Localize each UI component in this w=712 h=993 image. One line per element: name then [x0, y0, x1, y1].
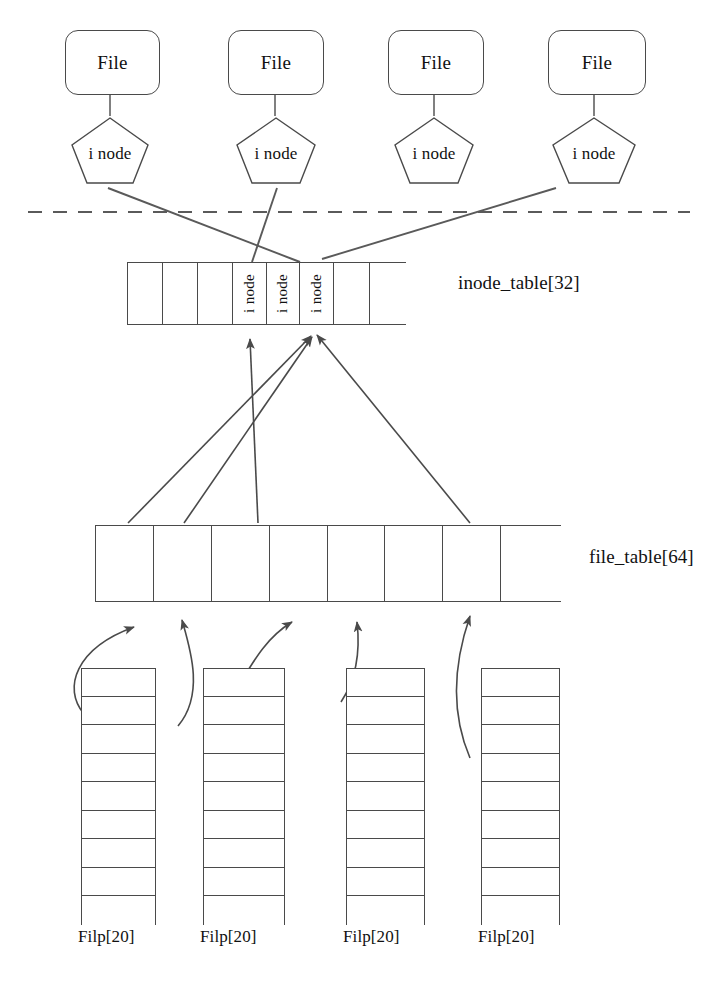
file-table-cell-5[interactable]	[385, 526, 443, 601]
filp-row[interactable]	[347, 697, 424, 725]
filp-row[interactable]	[482, 669, 559, 697]
inode-table-cell-5[interactable]: i node	[300, 263, 334, 324]
filp-row[interactable]	[82, 725, 155, 754]
filp-row[interactable]	[204, 754, 284, 782]
inode-node-label: i node	[393, 144, 475, 164]
filp-row[interactable]	[347, 782, 424, 811]
filp-table-1[interactable]	[203, 668, 285, 925]
file-table-cell-2[interactable]	[212, 526, 270, 601]
filp-row[interactable]	[82, 669, 155, 697]
filp-table-2[interactable]	[346, 668, 425, 925]
file-table-caption: file_table[64]	[589, 546, 694, 568]
filp-row[interactable]	[82, 754, 155, 782]
filp-table-3[interactable]	[481, 668, 560, 925]
filp-caption-text: Filp[20]	[343, 927, 400, 946]
filp-caption-text: Filp[20]	[478, 927, 535, 946]
inode-table-cell-label: i node	[308, 274, 325, 313]
inode-table-cell-2[interactable]	[198, 263, 233, 324]
filp-row[interactable]	[204, 669, 284, 697]
inode-table-cell-0[interactable]	[128, 263, 163, 324]
filp-row[interactable]	[482, 896, 559, 924]
file-node-1[interactable]: File	[228, 30, 324, 95]
file-table-cell-7[interactable]	[501, 526, 561, 601]
filesystem-diagram: File File File File i node i node	[0, 0, 712, 993]
inode-table-cell-1[interactable]	[163, 263, 198, 324]
filp-row[interactable]	[347, 669, 424, 697]
filp-row[interactable]	[482, 811, 559, 839]
filp-row[interactable]	[204, 725, 284, 754]
inode-table-cell-4[interactable]: i node	[267, 263, 301, 324]
inode-table-caption-text: inode_table[32]	[458, 272, 580, 293]
file-node-label: File	[97, 53, 127, 72]
filp-row[interactable]	[204, 782, 284, 811]
filp-row[interactable]	[482, 754, 559, 782]
filp-table-0-caption: Filp[20]	[78, 927, 135, 947]
filp-row[interactable]	[204, 839, 284, 868]
inode-table-cell-label: i node	[274, 274, 291, 313]
file-table-caption-text: file_table[64]	[589, 546, 694, 567]
file-node-label: File	[582, 53, 612, 72]
node-layer: File File File File i node i node	[0, 0, 712, 993]
file-node-0[interactable]: File	[65, 30, 160, 95]
filp-row[interactable]	[482, 697, 559, 725]
inode-node-label: i node	[70, 144, 150, 164]
filp-row[interactable]	[204, 811, 284, 839]
file-table-cell-3[interactable]	[270, 526, 328, 601]
filp-row[interactable]	[347, 839, 424, 868]
inode-node-label: i node	[235, 144, 317, 164]
file-node-label: File	[421, 53, 451, 72]
filp-row[interactable]	[347, 754, 424, 782]
inode-table-cell-label: i node	[241, 274, 258, 313]
filp-row[interactable]	[82, 868, 155, 896]
filp-row[interactable]	[204, 697, 284, 725]
filp-row[interactable]	[347, 868, 424, 896]
file-table-cell-1[interactable]	[154, 526, 212, 601]
inode-table-cell-7[interactable]	[370, 263, 406, 324]
filp-row[interactable]	[482, 782, 559, 811]
filp-row[interactable]	[347, 811, 424, 839]
filp-row[interactable]	[204, 868, 284, 896]
filp-row[interactable]	[347, 896, 424, 924]
inode-node-0[interactable]: i node	[70, 117, 150, 185]
file-node-label: File	[261, 53, 291, 72]
filp-row[interactable]	[482, 868, 559, 896]
file-node-3[interactable]: File	[548, 30, 646, 95]
filp-table-3-caption: Filp[20]	[478, 927, 535, 947]
filp-row[interactable]	[82, 782, 155, 811]
inode-table-cell-6[interactable]	[334, 263, 370, 324]
file-node-2[interactable]: File	[388, 30, 484, 95]
inode-node-3[interactable]: i node	[551, 117, 637, 185]
filp-caption-text: Filp[20]	[200, 927, 257, 946]
filp-table-1-caption: Filp[20]	[200, 927, 257, 947]
filp-table-0[interactable]	[81, 668, 156, 925]
filp-row[interactable]	[347, 725, 424, 754]
filp-table-2-caption: Filp[20]	[343, 927, 400, 947]
filp-row[interactable]	[82, 697, 155, 725]
filp-row[interactable]	[482, 725, 559, 754]
file-table-cell-4[interactable]	[328, 526, 386, 601]
file-table[interactable]	[95, 525, 561, 602]
inode-table[interactable]: i node i node i node	[127, 262, 406, 325]
file-table-cell-0[interactable]	[96, 526, 154, 601]
inode-node-2[interactable]: i node	[393, 117, 475, 185]
filp-row[interactable]	[82, 811, 155, 839]
file-table-cell-6[interactable]	[443, 526, 501, 601]
inode-table-cell-3[interactable]: i node	[233, 263, 267, 324]
inode-table-caption: inode_table[32]	[458, 272, 580, 294]
filp-caption-text: Filp[20]	[78, 927, 135, 946]
inode-node-label: i node	[551, 144, 637, 164]
filp-row[interactable]	[82, 839, 155, 868]
filp-row[interactable]	[204, 896, 284, 924]
filp-row[interactable]	[482, 839, 559, 868]
filp-row[interactable]	[82, 896, 155, 924]
inode-node-1[interactable]: i node	[235, 117, 317, 185]
